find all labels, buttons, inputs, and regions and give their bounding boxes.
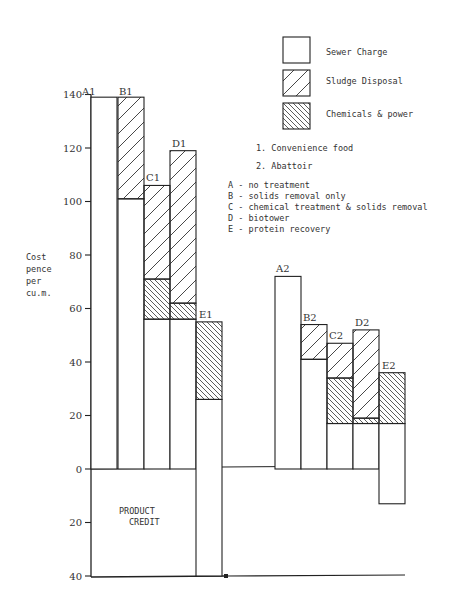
legend-swatch-chemicals-power (283, 103, 310, 129)
treatment-notes: A - no treatment B - solids removal only… (228, 180, 428, 234)
bar-label-d1: D1 (172, 138, 186, 149)
bar-label-e2: E2 (382, 360, 396, 371)
y-tick-label: 20 (69, 517, 82, 528)
y-axis-title-line-4: cu.m. (26, 288, 52, 298)
legend-swatch-sewer-charge (283, 37, 310, 63)
segment-sewer-charge (196, 399, 222, 576)
bar-label-d2: D2 (355, 317, 369, 328)
y-axis-title-line-1: Cost (26, 252, 46, 262)
segment-sewer-charge (275, 276, 301, 469)
legend: Sewer Charge Sludge Disposal Chemicals &… (283, 37, 413, 129)
y-tick-label: 140 (63, 89, 82, 100)
bar-label-c1: C1 (146, 172, 160, 183)
segment-sludge-disposal (118, 97, 144, 199)
y-axis-title-line-3: per (26, 276, 41, 286)
bar-d1 (170, 151, 196, 469)
y-tick-label: 80 (69, 250, 82, 261)
bar-label-b1: B1 (119, 86, 133, 97)
y-tick-label: 0 (76, 464, 82, 475)
bar-b2 (301, 325, 327, 469)
bar-a1 (91, 97, 117, 469)
legend-label-sewer-charge: Sewer Charge (326, 47, 387, 57)
product-credit-label-line-1: PRODUCT (119, 506, 155, 516)
y-tick-label: 20 (69, 410, 82, 421)
bar-b1 (118, 97, 144, 469)
bar-label-c2: C2 (329, 330, 343, 341)
y-tick-label: 120 (63, 143, 82, 154)
y-tick-label: 60 (69, 303, 82, 314)
segment-sewer-charge (353, 424, 379, 469)
segment-sewer-charge (327, 424, 353, 469)
legend-label-sludge-disposal: Sludge Disposal (326, 76, 403, 86)
segment-sludge-disposal (170, 151, 196, 303)
y-tick-label: 40 (69, 571, 82, 582)
y-axis-title-line-2: pence (26, 264, 52, 274)
segment-chemicals-power (327, 378, 353, 423)
stacked-bar-chart: 1401201008060402002040 A1B1C1D1E1A2B2C2D… (0, 0, 461, 613)
y-tick-label: 40 (69, 357, 82, 368)
bar-label-b2: B2 (303, 312, 317, 323)
segment-sewer-charge (91, 97, 117, 469)
treatment-note-c: C - chemical treatment & solids removal (228, 202, 428, 212)
treatment-note-b: B - solids removal only (228, 191, 346, 201)
treatment-note-a: A - no treatment (228, 180, 310, 190)
group-notes: 1. Convenience food 2. Abattoir (256, 143, 353, 171)
segment-chemicals-power (379, 373, 405, 424)
bar-label-e1: E1 (199, 309, 213, 320)
bar-e2 (379, 373, 405, 504)
treatment-note-d: D - biotower (228, 213, 289, 223)
segment-sludge-disposal (327, 343, 353, 378)
segment-sludge-disposal (144, 185, 170, 279)
segment-sewer-charge (379, 424, 405, 504)
segment-chemicals-power (196, 322, 222, 400)
bar-label-a1: A1 (81, 86, 96, 97)
bottom-line-group2 (226, 575, 405, 576)
segment-chemicals-power (144, 279, 170, 319)
bar-a2 (275, 276, 301, 469)
product-credit-label-line-2: CREDIT (129, 517, 160, 527)
group-note-1: 1. Convenience food (256, 143, 353, 153)
legend-label-chemicals-power: Chemicals & power (326, 109, 413, 119)
bars (91, 97, 405, 576)
segment-sewer-charge (144, 319, 170, 469)
segment-sludge-disposal (301, 325, 327, 360)
legend-swatch-sludge-disposal (283, 70, 310, 96)
bar-e1 (196, 322, 222, 576)
segment-sewer-charge (301, 359, 327, 469)
segment-sludge-disposal (353, 330, 379, 418)
segment-chemicals-power (353, 418, 379, 423)
y-axis: 1401201008060402002040 (63, 89, 91, 582)
segment-sewer-charge (118, 199, 144, 469)
group-note-2: 2. Abattoir (256, 161, 312, 171)
treatment-note-e: E - protein recovery (228, 224, 330, 234)
bar-c2 (327, 343, 353, 469)
y-tick-label: 100 (63, 196, 82, 207)
e1-bottom-marker (224, 574, 228, 578)
segment-sewer-charge (170, 319, 196, 469)
bar-d2 (353, 330, 379, 469)
bar-c1 (144, 185, 170, 469)
segment-chemicals-power (170, 303, 196, 319)
bar-label-a2: A2 (275, 263, 290, 274)
y-axis-ticks: 1401201008060402002040 (63, 89, 91, 582)
y-axis-title: Cost pence per cu.m. (26, 252, 52, 298)
